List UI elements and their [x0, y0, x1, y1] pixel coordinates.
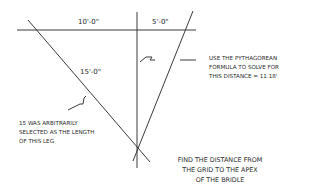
- note-pythagorean-line2: FORMULA TO SOLVE FOR: [209, 64, 279, 70]
- note-pythagorean-line3: THIS DISTANCE = 11.18': [208, 73, 277, 79]
- title-line1: FIND THE DISTANCE FROM: [178, 156, 263, 164]
- note-arbitrary-line1: 15 WAS ARBITRARILY: [19, 120, 78, 126]
- note-arbitrary-line2: SELECTED AS THE LENGTH: [19, 129, 94, 135]
- bridle-diagram: 10'-0" 5'-0" 15'-0" USE THE PYTHAGOREAN …: [0, 0, 312, 193]
- title-line3: OF THE BRIDLE: [196, 176, 245, 184]
- leader-pythagorean: [140, 57, 155, 62]
- label-10ft: 10'-0": [78, 18, 99, 26]
- label-5ft: 5'-0": [152, 18, 169, 26]
- note-arbitrary-line3: OF THIS LEG: [19, 138, 54, 144]
- note-pythagorean-line1: USE THE PYTHAGOREAN: [209, 55, 277, 61]
- leader-arbitrary: [68, 96, 86, 110]
- title-line2: THE GRID TO THE APEX: [181, 166, 258, 174]
- right-bridle-leg: [133, 11, 193, 161]
- label-15ft: 15'-0": [80, 68, 101, 76]
